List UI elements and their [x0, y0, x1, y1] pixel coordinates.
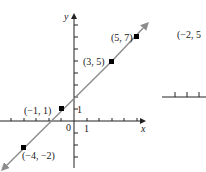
origin-label: 0 — [66, 122, 71, 133]
coordinate-graph: y x 0 1 1 (5, 7) (3, 5) (−1, 1) (−4, −2)… — [0, 0, 206, 172]
point-label-neg1-1: (−1, 1) — [24, 105, 51, 117]
right-graph-partial: (−2, 5 — [162, 29, 206, 97]
point-label-neg4-neg2: (−4, −2) — [22, 150, 55, 162]
point-5-7 — [134, 34, 139, 39]
x-axis — [0, 118, 143, 121]
point-neg1-1 — [59, 106, 64, 111]
point-label-neg2-5: (−2, 5 — [177, 29, 201, 41]
x-tick-label-1: 1 — [84, 123, 89, 134]
x-axis-label: x — [140, 123, 146, 134]
point-label-5-7: (5, 7) — [111, 32, 133, 44]
point-label-3-5: (3, 5) — [83, 56, 105, 68]
y-tick-label-1: 1 — [77, 104, 82, 115]
point-3-5 — [109, 59, 114, 64]
y-axis — [74, 16, 78, 168]
y-axis-label: y — [63, 11, 69, 22]
